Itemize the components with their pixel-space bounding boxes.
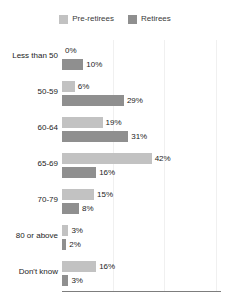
bar-group: 15%8%: [62, 184, 230, 220]
bar-item: 2%: [62, 239, 230, 250]
bar: [62, 81, 75, 92]
bar-group: 0%10%: [62, 40, 230, 76]
legend-swatch-icon-retirees: [128, 15, 137, 24]
bar-group: 19%31%: [62, 112, 230, 148]
bar-item: 42%: [62, 153, 230, 164]
bar-value-label: 19%: [106, 117, 122, 128]
chart-row: Don't know16%3%: [0, 256, 230, 292]
bar-item: 6%: [62, 81, 230, 92]
chart-rows: Less than 500%10%50-596%29%60-6419%31%65…: [0, 40, 230, 292]
category-label: 50-59: [0, 87, 58, 97]
bar: [62, 153, 152, 164]
legend-label-retirees: Retirees: [141, 14, 171, 24]
legend-item-retirees: Retirees: [128, 14, 171, 24]
chart-row: 65-6942%16%: [0, 148, 230, 184]
bar-group: 6%29%: [62, 76, 230, 112]
category-label: 65-69: [0, 159, 58, 169]
legend-item-pre-retirees: Pre-retirees: [59, 14, 114, 24]
legend-label-pre-retirees: Pre-retirees: [72, 14, 114, 24]
bar-value-label: 31%: [131, 131, 147, 142]
bar-value-label: 2%: [69, 239, 81, 250]
bar-item: 31%: [62, 131, 230, 142]
bar: [62, 261, 96, 272]
bar-item: 10%: [62, 59, 230, 70]
category-label: 70-79: [0, 195, 58, 205]
bar-value-label: 29%: [127, 95, 143, 106]
bar-item: 3%: [62, 275, 230, 286]
chart-row: 60-6419%31%: [0, 112, 230, 148]
bar-value-label: 16%: [99, 167, 115, 178]
chart-row: 70-7915%8%: [0, 184, 230, 220]
bar-item: 19%: [62, 117, 230, 128]
category-label: 60-64: [0, 123, 58, 133]
bar-value-label: 10%: [86, 59, 102, 70]
grouped-bar-chart: Pre-retirees Retirees Less than 500%10%5…: [0, 0, 230, 308]
bar-value-label: 42%: [155, 153, 171, 164]
bar-value-label: 16%: [99, 261, 115, 272]
bar-item: 16%: [62, 261, 230, 272]
bar-item: 8%: [62, 203, 230, 214]
bar-group: 3%2%: [62, 220, 230, 256]
category-label: Less than 50: [0, 51, 58, 61]
bar-item: 16%: [62, 167, 230, 178]
bar-item: 3%: [62, 225, 230, 236]
bar-value-label: 3%: [71, 275, 83, 286]
x-axis-line: [62, 291, 221, 292]
bar: [62, 203, 79, 214]
chart-row: 80 or above3%2%: [0, 220, 230, 256]
bar-group: 42%16%: [62, 148, 230, 184]
bar: [62, 275, 68, 286]
legend-swatch-icon-pre-retirees: [59, 15, 68, 24]
bar: [62, 95, 124, 106]
category-label: Don't know: [0, 267, 58, 277]
bar-group: 16%3%: [62, 256, 230, 292]
bar-item: 0%: [62, 45, 230, 56]
category-label: 80 or above: [0, 231, 58, 241]
chart-row: Less than 500%10%: [0, 40, 230, 76]
bar: [62, 167, 96, 178]
bar: [62, 189, 94, 200]
bar: [62, 225, 68, 236]
bar: [62, 239, 66, 250]
chart-legend: Pre-retirees Retirees: [0, 14, 230, 24]
bar-item: 29%: [62, 95, 230, 106]
chart-row: 50-596%29%: [0, 76, 230, 112]
bar-value-label: 0%: [65, 45, 77, 56]
bar-value-label: 8%: [82, 203, 94, 214]
bar-value-label: 3%: [71, 225, 83, 236]
bar-value-label: 6%: [78, 81, 90, 92]
bar: [62, 59, 83, 70]
bar: [62, 117, 103, 128]
bar: [62, 131, 128, 142]
bar-value-label: 15%: [97, 189, 113, 200]
bar-item: 15%: [62, 189, 230, 200]
